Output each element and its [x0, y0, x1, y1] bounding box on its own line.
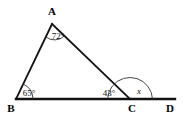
angle-label-B: 65° — [23, 88, 36, 98]
triangle-figure-svg: A B C D 72° 65° 43° x — [0, 0, 185, 117]
angle-label-C-interior: 43° — [103, 88, 116, 98]
angle-label-C-exterior: x — [136, 86, 141, 96]
vertex-label-D: D — [166, 102, 174, 114]
vertex-label-C: C — [128, 102, 136, 114]
vertex-label-B: B — [7, 102, 15, 114]
geometry-diagram: A B C D 72° 65° 43° x — [0, 0, 185, 117]
vertex-label-A: A — [48, 5, 56, 17]
angle-label-A: 72° — [52, 31, 65, 41]
